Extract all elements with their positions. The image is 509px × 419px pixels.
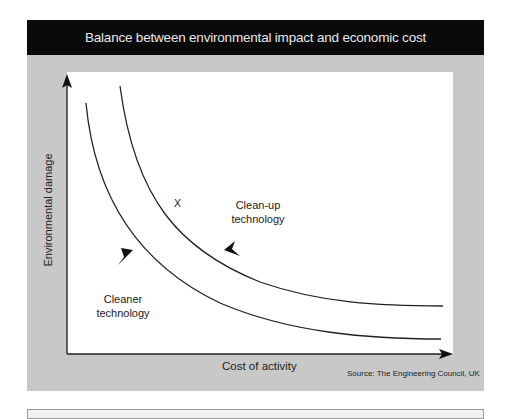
cleaner-label: Cleaner technology (78, 292, 168, 320)
clean-up-label: Clean-up technology (213, 198, 303, 226)
cleaner-label-line2: technology (78, 306, 168, 320)
clean-up-arrow-icon (224, 241, 240, 256)
cleaner-arrow-icon (118, 248, 133, 265)
outer-curve (120, 86, 443, 306)
x-axis-label: Cost of activity (222, 360, 297, 372)
y-axis-label: Environmental damage (42, 153, 54, 266)
cleaner-label-line1: Cleaner (78, 292, 168, 306)
bottom-box (27, 409, 484, 419)
clean-up-label-line1: Clean-up (213, 198, 303, 212)
point-marker-x: X (174, 196, 181, 210)
clean-up-label-line2: technology (213, 212, 303, 226)
source-note: Source: The Engineering Council, UK (347, 369, 480, 378)
